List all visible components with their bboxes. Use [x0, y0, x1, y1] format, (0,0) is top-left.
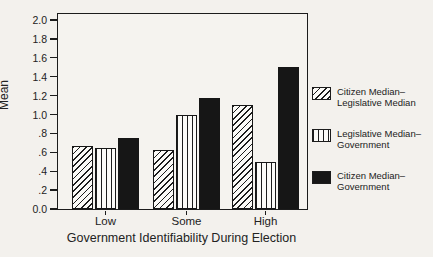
y-axis-title: Mean [0, 80, 11, 110]
y-tick-label: 1.4 [32, 70, 47, 84]
x-axis-title: Government Identifiability During Electi… [57, 231, 306, 245]
y-tick-label: 2.0 [32, 13, 47, 27]
plot-area: 0.0.2.4.6.81.01.21.41.61.82.0LowSomeHigh [57, 13, 308, 210]
x-tick-label-some: Some [157, 215, 217, 227]
legend-item: Citizen Median– Government [312, 170, 430, 192]
solid-black-swatch-icon [312, 171, 331, 184]
bar-some-solid-black [199, 98, 220, 210]
x-axis-tick [105, 211, 106, 215]
y-axis-tick [50, 95, 57, 96]
y-axis-tick [50, 171, 57, 172]
y-axis-tick [50, 38, 57, 39]
y-axis-tick [50, 57, 57, 58]
y-axis-tick [50, 208, 57, 209]
x-tick-label-low: Low [76, 215, 136, 227]
legend-label-line2: Legislative Median [337, 97, 416, 108]
y-tick-label: .8 [38, 126, 47, 140]
y-tick-label: 1.0 [32, 108, 47, 122]
y-tick-label: 1.8 [32, 32, 47, 46]
bar-high-vertical-lines [255, 162, 276, 209]
x-axis-tick [265, 211, 266, 215]
bar-some-diagonal-hatch [153, 150, 174, 209]
legend-item: Citizen Median– Legislative Median [312, 86, 430, 108]
y-tick-label: 1.2 [32, 89, 47, 103]
y-axis-tick [50, 133, 57, 134]
bar-some-vertical-lines [176, 115, 197, 210]
bar-low-diagonal-hatch [72, 146, 93, 209]
legend-label-line1: Citizen Median– [337, 86, 405, 97]
y-tick-label: .6 [38, 145, 47, 159]
legend-label: Citizen Median– Legislative Median [337, 86, 416, 108]
y-axis-tick [50, 152, 57, 153]
legend-label-line2: Government [337, 181, 389, 192]
y-axis-tick [50, 189, 57, 190]
y-axis-tick [50, 114, 57, 115]
legend-label-line2: Government [337, 139, 389, 150]
y-tick-label: .4 [38, 164, 47, 178]
legend-label: Citizen Median– Government [337, 170, 405, 192]
diagonal-hatch-swatch-icon [312, 87, 331, 100]
x-axis-tick [186, 211, 187, 215]
bar-low-solid-black [118, 138, 139, 209]
x-tick-label-high: High [236, 215, 296, 227]
legend-label-line1: Legislative Median– [337, 128, 421, 139]
bar-high-solid-black [278, 67, 299, 209]
legend-label: Legislative Median– Government [337, 128, 421, 150]
bar-high-diagonal-hatch [232, 105, 253, 209]
bar-chart-figure: Mean 0.0.2.4.6.81.01.21.41.61.82.0LowSom… [0, 0, 433, 257]
bar-low-vertical-lines [95, 148, 116, 209]
y-tick-label: .2 [38, 183, 47, 197]
y-axis-tick [50, 19, 57, 20]
y-axis-tick [50, 76, 57, 77]
y-tick-label: 1.6 [32, 51, 47, 65]
legend-label-line1: Citizen Median– [337, 170, 405, 181]
legend: Citizen Median– Legislative Median Legis… [312, 86, 430, 212]
legend-item: Legislative Median– Government [312, 128, 430, 150]
vertical-lines-swatch-icon [312, 129, 331, 142]
y-tick-label: 0.0 [32, 202, 47, 216]
